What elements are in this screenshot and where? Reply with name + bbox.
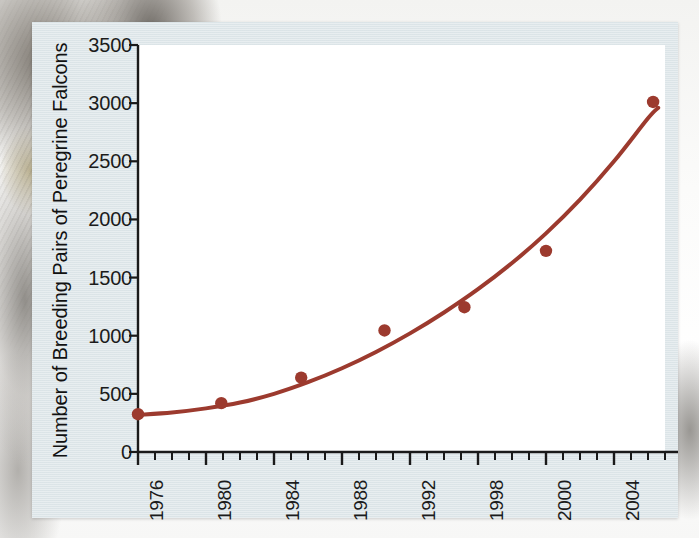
y-tick-label: 1500 (88, 266, 132, 289)
y-tick-label: 0 (121, 441, 132, 464)
x-tick-label: 1998 (486, 480, 508, 521)
x-tick-label: 2000 (554, 480, 576, 521)
y-axis-tick-labels: 0500100015002000250030003500 (70, 22, 132, 518)
x-tick-label: 1976 (146, 480, 168, 521)
data-point (647, 96, 659, 108)
y-tick-label: 2500 (88, 150, 132, 173)
y-tick-label: 3000 (88, 92, 132, 115)
y-tick-label: 3500 (88, 34, 132, 57)
x-tick-label: 1984 (282, 480, 304, 521)
y-tick-label: 500 (99, 382, 132, 405)
data-point (295, 371, 307, 383)
data-point (540, 245, 552, 257)
data-points (132, 96, 660, 421)
x-tick-label: 1992 (418, 480, 440, 521)
x-tick-label: 1988 (350, 480, 372, 521)
data-point (215, 397, 227, 409)
y-tick-label: 1000 (88, 324, 132, 347)
x-tick-label: 2004 (622, 480, 644, 521)
chart-screenshot: 0500100015002000250030003500 19761980198… (0, 0, 699, 538)
chart-panel: 0500100015002000250030003500 19761980198… (32, 22, 678, 518)
axis-lines (138, 45, 678, 452)
data-point (378, 324, 390, 336)
y-tick-label: 2000 (88, 208, 132, 231)
data-point (132, 408, 144, 420)
data-point (458, 301, 470, 313)
x-tick-label: 1980 (214, 480, 236, 521)
trend-curve (138, 108, 658, 415)
y-axis-title: Number of Breeding Pairs of Peregrine Fa… (49, 41, 72, 461)
x-axis-tick-labels: 19761980198419881992199820002004 (32, 462, 678, 522)
